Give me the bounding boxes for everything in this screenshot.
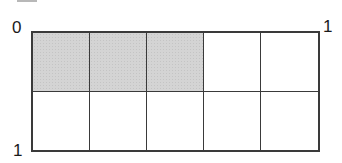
grid-cell-r1-c3 (147, 33, 204, 92)
axis-label-horizontal-end: 1 (323, 18, 332, 35)
axis-label-origin: 0 (12, 19, 21, 36)
grid-cell-r1-c4 (204, 33, 261, 92)
grid-cell-r2-c1 (33, 92, 90, 151)
axis-label-vertical-end: 1 (13, 142, 22, 159)
grid-cell-r2-c5 (261, 92, 318, 151)
cropped-mark (17, 0, 37, 2)
grid-cell-r1-c1 (33, 33, 90, 92)
area-model-grid (31, 31, 320, 152)
grid-cell-r1-c2 (90, 33, 147, 92)
grid-cell-r2-c2 (90, 92, 147, 151)
grid-cell-r1-c5 (261, 33, 318, 92)
grid-cell-r2-c4 (204, 92, 261, 151)
grid-cell-r2-c3 (147, 92, 204, 151)
